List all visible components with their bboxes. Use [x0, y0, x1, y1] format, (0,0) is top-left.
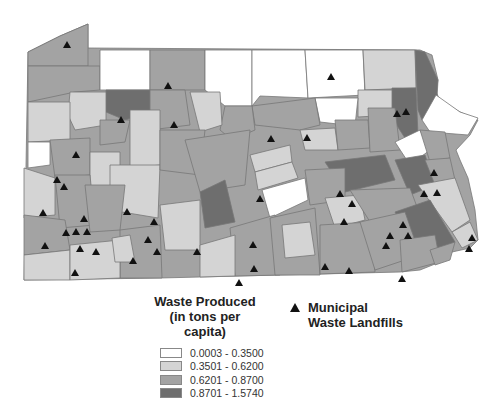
county-map [0, 0, 496, 290]
county-blair [160, 200, 200, 250]
legend-title-line2: (in tons per capita) [150, 309, 260, 339]
legend-items: 0.0003 - 0.3500 0.3501 - 0.6200 0.6201 -… [160, 346, 350, 400]
county-westmoreland [85, 185, 125, 232]
legend-label: 0.3501 - 0.6200 [190, 360, 264, 372]
landfill-line2: Waste Landfills [308, 315, 403, 330]
legend-item: 0.8701 - 1.5740 [160, 387, 350, 400]
county-bradford [305, 50, 365, 98]
county-mercer [28, 102, 70, 142]
swatch-class-2 [160, 361, 182, 371]
county-mckean [150, 50, 205, 90]
landfill-legend: Municipal Waste Landfills [290, 300, 403, 330]
legend-title: Waste Produced (in tons per capita) [150, 294, 260, 339]
county-butler [50, 138, 90, 178]
legend-item: 0.6201 - 0.8700 [160, 373, 350, 387]
county-venango [100, 120, 130, 145]
swatch-class-4 [160, 388, 182, 398]
county-greene [24, 250, 70, 280]
legend-label: 0.8701 - 1.5740 [190, 387, 264, 399]
triangle-icon [290, 303, 300, 312]
legend-item: 0.0003 - 0.3500 [160, 346, 350, 360]
legend-label: 0.6201 - 0.8700 [190, 374, 264, 386]
landfill-legend-title: Municipal Waste Landfills [308, 300, 403, 330]
county-columbia [335, 120, 370, 150]
swatch-class-3 [160, 375, 182, 385]
county-erie [28, 24, 88, 66]
legend-title-line1: Waste Produced [150, 294, 260, 309]
legend-item: 0.3501 - 0.6200 [160, 360, 350, 374]
county-clarion [130, 110, 160, 168]
county-susquehanna [363, 50, 416, 90]
swatch-class-1 [160, 348, 182, 358]
county-adams [282, 222, 315, 258]
county-warren [100, 50, 150, 90]
county-lawrence [28, 142, 50, 168]
legend-label: 0.0003 - 0.3500 [190, 347, 264, 359]
landfill-line1: Municipal [308, 300, 403, 315]
